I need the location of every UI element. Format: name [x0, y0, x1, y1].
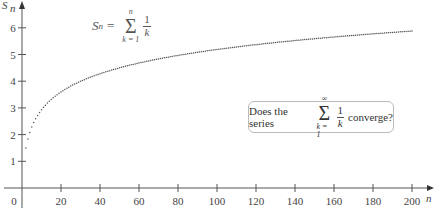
data-point — [318, 38, 320, 40]
data-point — [95, 74, 97, 76]
data-point — [370, 33, 372, 35]
data-point — [259, 43, 261, 45]
data-point — [41, 109, 43, 111]
data-point — [115, 68, 117, 70]
data-point — [109, 70, 111, 72]
y-tick-label: 6 — [10, 22, 16, 34]
data-point — [43, 107, 45, 109]
data-point — [411, 30, 413, 32]
sigma-icon: n Σ k = 1 — [122, 8, 139, 44]
data-point — [366, 34, 368, 36]
data-point — [320, 37, 322, 39]
data-point — [376, 33, 378, 35]
data-point — [181, 54, 183, 56]
data-point — [351, 35, 353, 37]
data-point — [179, 54, 181, 56]
data-point — [349, 35, 351, 37]
data-point — [56, 94, 58, 96]
data-point — [220, 48, 222, 50]
data-point — [29, 132, 31, 134]
y-axis-label-sub: n — [10, 2, 16, 14]
data-point — [247, 45, 249, 47]
data-point — [296, 40, 298, 42]
data-point — [121, 67, 123, 69]
data-point — [82, 80, 84, 82]
data-point — [249, 45, 251, 47]
data-point — [312, 38, 314, 40]
x-tick-label: 60 — [134, 195, 146, 207]
data-point — [273, 42, 275, 44]
data-point — [203, 51, 205, 53]
data-point — [25, 147, 27, 149]
data-point — [275, 42, 277, 44]
data-point — [398, 31, 400, 33]
data-point — [134, 63, 136, 65]
data-point — [156, 59, 158, 61]
data-point — [234, 46, 236, 48]
data-point — [298, 39, 300, 41]
x-tick-label: 40 — [95, 195, 107, 207]
data-point — [70, 85, 72, 87]
data-point — [363, 34, 365, 36]
data-point — [105, 71, 107, 73]
data-point — [240, 46, 242, 48]
data-point — [277, 42, 279, 44]
data-point — [136, 63, 138, 65]
data-point — [341, 36, 343, 38]
data-point — [382, 32, 384, 34]
data-point — [185, 53, 187, 55]
x-tick-label: 100 — [209, 195, 226, 207]
data-point — [347, 35, 349, 37]
x-tick-label: 80 — [173, 195, 185, 207]
data-point — [288, 40, 290, 42]
data-point — [357, 34, 359, 36]
data-point — [271, 42, 273, 44]
data-point — [201, 51, 203, 53]
y-tick-label: 5 — [10, 49, 16, 61]
data-point — [345, 35, 347, 37]
data-point — [148, 60, 150, 62]
data-point — [214, 49, 216, 51]
y-tick-label: 1 — [10, 155, 16, 167]
data-point — [103, 72, 105, 74]
data-point — [80, 81, 82, 83]
data-point — [267, 43, 269, 45]
formula-fraction: 1 k — [143, 14, 151, 38]
data-point — [380, 33, 382, 35]
data-point — [329, 37, 331, 39]
data-point — [86, 78, 88, 80]
data-point — [400, 31, 402, 33]
data-point — [88, 77, 90, 79]
data-point — [325, 37, 327, 39]
data-point — [384, 32, 386, 34]
data-point — [378, 33, 380, 35]
data-point — [183, 54, 185, 56]
data-point — [193, 52, 195, 54]
data-point — [335, 36, 337, 38]
y-tick-label: 3 — [10, 102, 16, 114]
data-point — [322, 37, 324, 39]
data-point — [37, 115, 39, 117]
data-point — [337, 36, 339, 38]
data-point — [261, 43, 263, 45]
data-point — [54, 95, 56, 97]
data-point — [210, 50, 212, 52]
data-point — [39, 112, 41, 114]
data-point — [255, 44, 257, 46]
data-point — [224, 48, 226, 50]
data-point — [152, 59, 154, 61]
data-point — [353, 35, 355, 37]
data-point — [169, 56, 171, 58]
data-point — [372, 33, 374, 35]
data-point — [195, 52, 197, 54]
data-point — [279, 41, 281, 43]
data-point — [218, 48, 220, 50]
x-axis-arrow-icon — [427, 185, 434, 191]
question-prefix: Does the series — [249, 105, 312, 129]
data-point — [368, 33, 370, 35]
sigma-icon: ∞ Σ k = 1 — [316, 95, 332, 139]
data-point — [304, 39, 306, 41]
data-point — [316, 38, 318, 40]
x-axis-label: n — [426, 192, 432, 204]
data-point — [197, 52, 199, 54]
